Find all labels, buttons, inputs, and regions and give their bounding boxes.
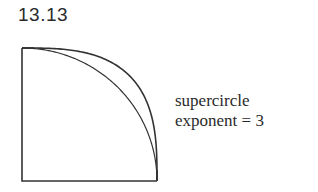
supercircle-diagram <box>0 0 318 192</box>
caption-line-1: supercircle <box>175 91 264 111</box>
caption: supercircle exponent = 3 <box>175 91 264 131</box>
caption-line-2: exponent = 3 <box>175 111 264 131</box>
supercircle-curve <box>22 48 157 181</box>
circle-curve <box>22 48 157 181</box>
box-frame <box>22 48 157 181</box>
